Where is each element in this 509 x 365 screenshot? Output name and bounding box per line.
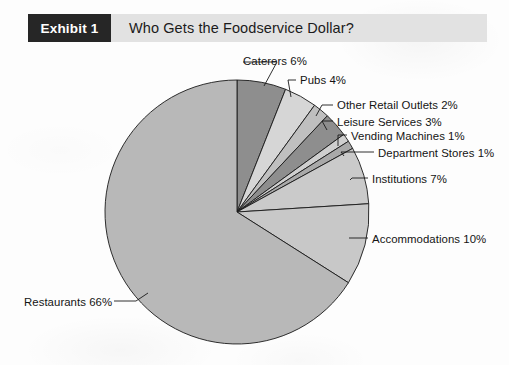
pie-slice-label: Vending Machines 1%: [351, 131, 465, 142]
pie-slice-label: Leisure Services 3%: [337, 117, 442, 128]
pie-slice-label: Institutions 7%: [372, 174, 447, 185]
exhibit-page: Exhibit 1 Who Gets the Foodservice Dolla…: [0, 0, 509, 365]
pie-slice-label: Pubs 4%: [300, 75, 346, 86]
pie-slice-label: Other Retail Outlets 2%: [337, 100, 458, 111]
pie-slice-group: [105, 80, 369, 344]
pie-slice-label: Accommodations 10%: [372, 234, 486, 245]
pie-slice-label: Restaurants 66%: [24, 297, 112, 308]
pie-slice-label: Department Stores 1%: [378, 148, 494, 159]
pie-slice-label: Caterers 6%: [243, 56, 307, 67]
pie-chart: Caterers 6%Pubs 4%Other Retail Outlets 2…: [0, 44, 509, 365]
